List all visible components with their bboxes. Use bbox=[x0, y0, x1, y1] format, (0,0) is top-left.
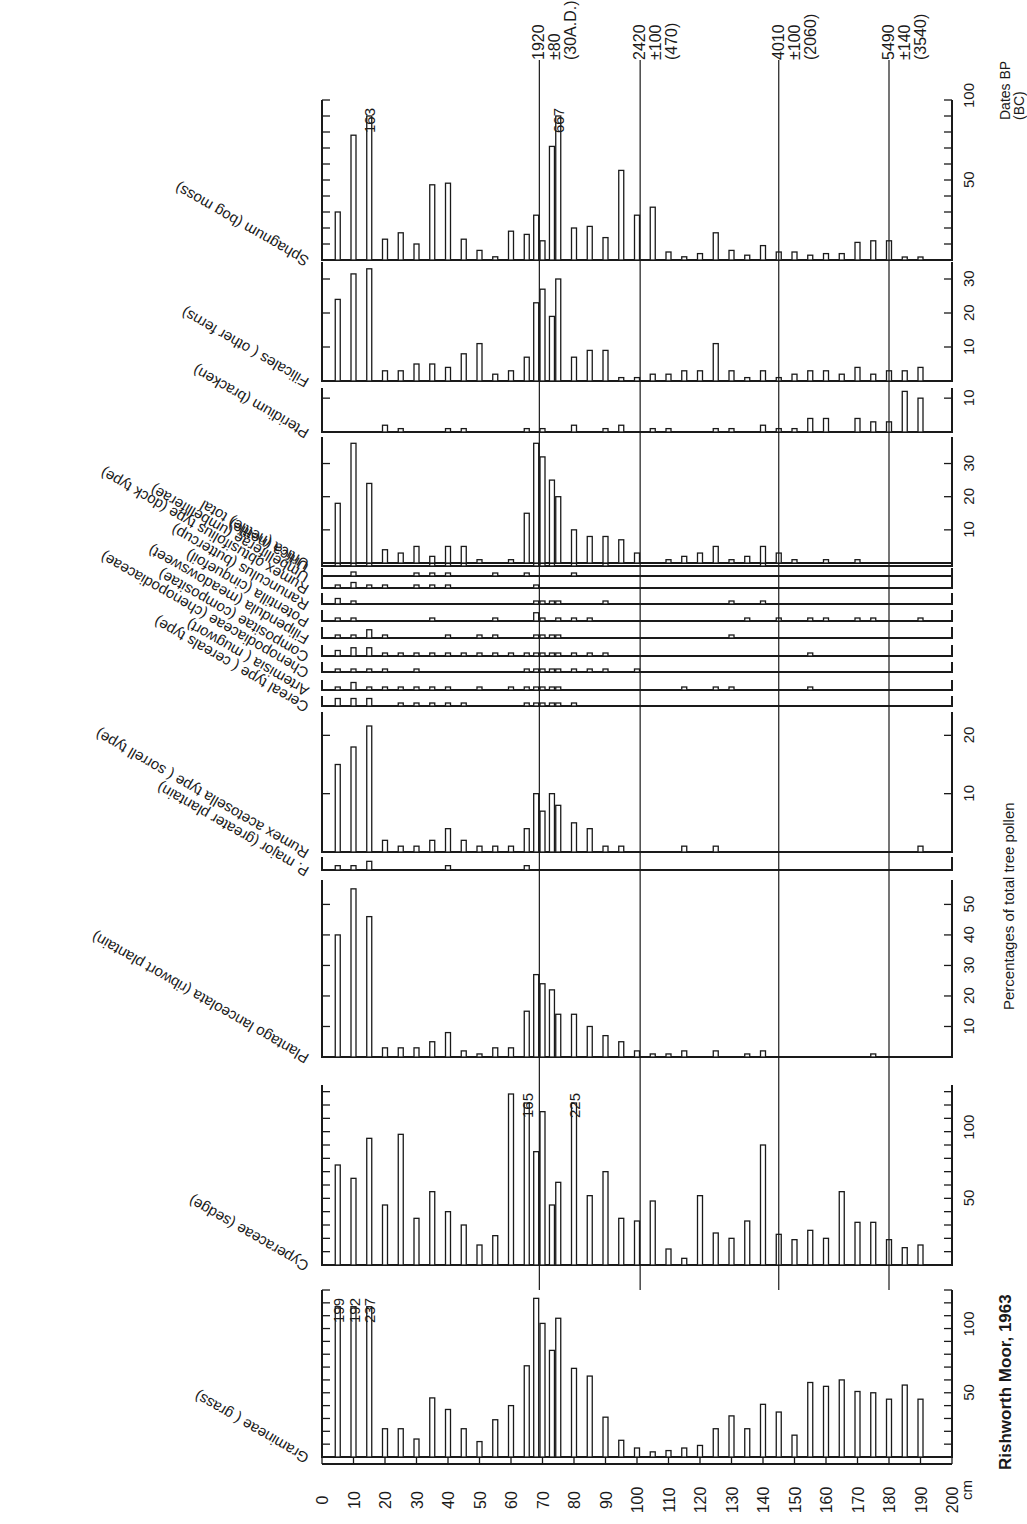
bar bbox=[367, 116, 372, 260]
tick-label: 40 bbox=[960, 926, 977, 943]
bar bbox=[430, 703, 435, 706]
bar bbox=[666, 252, 671, 260]
bar bbox=[414, 1439, 419, 1457]
panel-17: 102030Filicales ( other ferns) bbox=[178, 262, 977, 391]
bar bbox=[446, 573, 451, 576]
bar bbox=[414, 703, 419, 706]
bar bbox=[540, 429, 545, 432]
bar bbox=[682, 687, 687, 690]
bar bbox=[572, 1103, 577, 1265]
bar bbox=[335, 299, 340, 381]
bar bbox=[650, 1201, 655, 1265]
bar bbox=[534, 303, 539, 381]
bar bbox=[713, 344, 718, 381]
bar bbox=[414, 846, 419, 852]
bar bbox=[572, 573, 577, 576]
bar bbox=[351, 669, 356, 672]
bar bbox=[619, 1218, 624, 1265]
tick-label: 30 bbox=[960, 957, 977, 974]
bar bbox=[383, 371, 388, 381]
tick-label: 20 bbox=[960, 488, 977, 505]
bar bbox=[713, 1233, 718, 1265]
bar bbox=[398, 653, 403, 656]
bar bbox=[367, 861, 372, 870]
bar bbox=[603, 846, 608, 852]
bar bbox=[871, 1393, 876, 1457]
bar bbox=[713, 546, 718, 563]
bar bbox=[682, 846, 687, 852]
panel-15: 102030Urtica (nettle) total bbox=[197, 437, 977, 573]
bar bbox=[572, 653, 577, 656]
bar bbox=[534, 975, 539, 1057]
bar bbox=[619, 1042, 624, 1057]
bar bbox=[556, 653, 561, 656]
bar bbox=[761, 425, 766, 432]
bar bbox=[430, 364, 435, 381]
bar bbox=[493, 257, 498, 260]
bar bbox=[745, 378, 750, 381]
overflow-label: 237 bbox=[361, 1298, 378, 1323]
bar bbox=[698, 1196, 703, 1265]
bar bbox=[761, 1145, 766, 1265]
bar bbox=[635, 669, 640, 672]
bar bbox=[761, 546, 766, 563]
bar bbox=[461, 703, 466, 706]
bar bbox=[383, 585, 388, 588]
bar bbox=[855, 1391, 860, 1457]
bar bbox=[603, 669, 608, 672]
panel-2: 1020304050Plantago lanceolata (ribwort p… bbox=[89, 880, 977, 1067]
bar bbox=[603, 1036, 608, 1057]
bar bbox=[335, 503, 340, 563]
bar bbox=[587, 350, 592, 381]
bar bbox=[824, 1386, 829, 1457]
bar bbox=[335, 599, 340, 605]
bar bbox=[666, 560, 671, 563]
bar bbox=[587, 618, 592, 621]
bar bbox=[808, 1230, 813, 1265]
bar bbox=[619, 1440, 624, 1457]
y-axis-label: Percentages of total tree pollen bbox=[1000, 802, 1017, 1010]
bar bbox=[461, 653, 466, 656]
bar bbox=[549, 480, 554, 563]
bar bbox=[367, 585, 372, 588]
bar bbox=[461, 429, 466, 432]
bar bbox=[540, 811, 545, 852]
bar bbox=[902, 257, 907, 260]
bar bbox=[745, 1221, 750, 1265]
bar bbox=[761, 1404, 766, 1457]
bar bbox=[430, 1192, 435, 1265]
bar bbox=[524, 234, 529, 260]
bar bbox=[446, 1212, 451, 1265]
bar bbox=[855, 618, 860, 621]
bar bbox=[572, 823, 577, 852]
bar bbox=[446, 585, 451, 588]
bar bbox=[650, 374, 655, 381]
bar bbox=[540, 687, 545, 690]
bar bbox=[383, 550, 388, 563]
bar bbox=[650, 207, 655, 260]
bar bbox=[918, 846, 923, 852]
bar bbox=[603, 1417, 608, 1457]
tick-label: 50 bbox=[960, 896, 977, 913]
bar bbox=[383, 239, 388, 260]
bar bbox=[549, 669, 554, 672]
bar bbox=[824, 254, 829, 260]
bar bbox=[351, 747, 356, 852]
tick-label: 20 bbox=[960, 987, 977, 1004]
depth-tick-label: 50 bbox=[472, 1491, 489, 1509]
bar bbox=[351, 135, 356, 260]
bar bbox=[682, 1051, 687, 1057]
bar bbox=[430, 653, 435, 656]
bar bbox=[824, 418, 829, 432]
bar bbox=[603, 1172, 608, 1265]
panel-frame bbox=[322, 437, 952, 563]
bar bbox=[493, 1236, 498, 1265]
bar bbox=[351, 889, 356, 1057]
bar bbox=[534, 794, 539, 852]
tick-label: 100 bbox=[960, 1115, 977, 1140]
tick-label: 10 bbox=[960, 521, 977, 538]
bar bbox=[792, 1435, 797, 1457]
date-text: (30A.D.) bbox=[562, 0, 579, 60]
date-text: ±140 bbox=[896, 24, 913, 60]
bar bbox=[729, 601, 734, 604]
